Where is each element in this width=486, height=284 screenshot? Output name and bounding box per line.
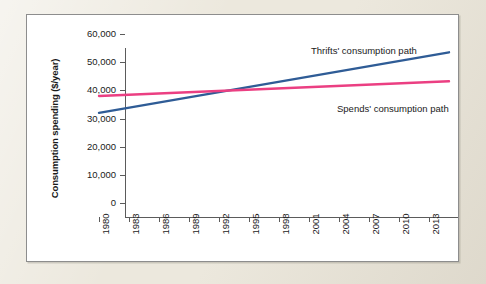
series-label-spends: Spends' consumption path [337, 103, 449, 114]
series-label-thrifts: Thrifts' consumption path [311, 45, 417, 56]
figure-container: Consumption spending ($/year) 010,00020,… [0, 0, 486, 284]
chart-panel: Consumption spending ($/year) 010,00020,… [26, 14, 459, 262]
